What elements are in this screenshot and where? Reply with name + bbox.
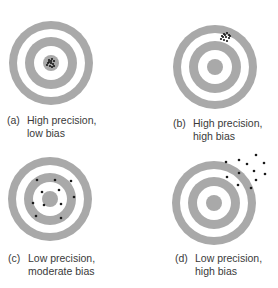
shot-dot (225, 36, 227, 38)
bullseye (207, 59, 223, 75)
panel-tag: (a) (7, 114, 20, 127)
shot-dot (60, 217, 63, 220)
shot-dot (32, 202, 35, 205)
shot-dot (263, 162, 266, 165)
shot-dot (238, 172, 241, 175)
shot-dot (250, 187, 253, 190)
shot-dot (223, 39, 225, 41)
shot-dot (238, 159, 241, 162)
panel-label-c: (c)Low precision,moderate bias (8, 252, 118, 280)
panel-caption-line2: high bias (193, 130, 235, 143)
shot-dot (226, 40, 228, 42)
shot-dot (36, 179, 39, 182)
shot-dot (70, 180, 73, 183)
shot-dot (49, 65, 51, 67)
shot-dot (237, 184, 240, 187)
shot-dot (264, 173, 267, 176)
shot-dot (73, 196, 76, 199)
panel-caption-line1: High precision, (27, 114, 96, 127)
shot-dot (54, 179, 57, 182)
shot-dot (60, 203, 63, 206)
shot-dot (51, 58, 53, 60)
target-a (9, 21, 93, 105)
shot-dot (46, 64, 48, 66)
shot-dot (43, 204, 46, 207)
shot-dot (226, 32, 228, 34)
shot-dot (228, 37, 230, 39)
panel-label-a: (a)High precision,low bias (7, 114, 117, 142)
shot-dot (50, 62, 52, 64)
shot-dot (221, 35, 223, 37)
shot-dot (35, 215, 38, 218)
target-b (173, 25, 257, 109)
shot-dot (48, 59, 50, 61)
shot-dot (226, 176, 229, 179)
panel-caption-line2: moderate bias (28, 265, 95, 278)
panel-tag: (c) (8, 252, 20, 265)
target-c (8, 157, 92, 241)
panel-label-d: (d)Low precision,high bias (175, 252, 278, 280)
shot-dot (224, 34, 226, 36)
shot-dot (253, 170, 256, 173)
panel-caption-line2: low bias (27, 127, 65, 140)
panel-caption-line1: Low precision, (28, 252, 95, 265)
shot-dot (255, 179, 258, 182)
panel-label-b: (b)High precision,high bias (173, 117, 278, 145)
panel-caption-line1: High precision, (193, 117, 262, 130)
bullseye (206, 195, 222, 211)
shot-dot (53, 65, 55, 67)
shot-dot (246, 163, 249, 166)
shot-dot (220, 38, 222, 40)
panel-tag: (b) (173, 117, 186, 130)
shot-dot (229, 35, 231, 37)
shot-dot (255, 154, 258, 157)
shot-dot (51, 66, 53, 68)
shot-dot (58, 189, 61, 192)
shot-dot (52, 63, 54, 65)
shot-dot (53, 60, 55, 62)
shot-dot (41, 191, 44, 194)
shot-dot (48, 61, 50, 63)
panel-tag: (d) (175, 252, 188, 265)
shot-dot (50, 60, 52, 62)
panel-caption-line1: Low precision, (195, 252, 262, 265)
shot-dot (225, 161, 228, 164)
panel-caption-line2: high bias (195, 265, 237, 278)
target-d (172, 154, 266, 245)
